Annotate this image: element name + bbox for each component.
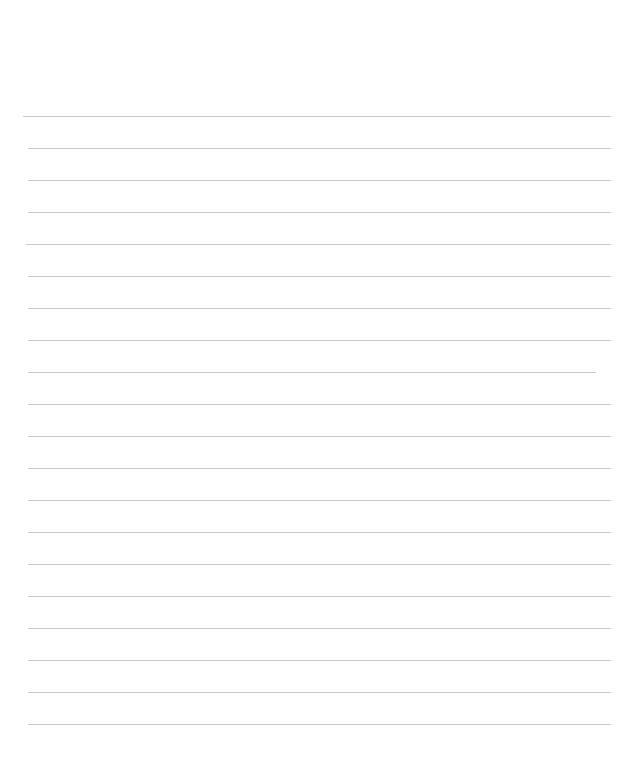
ruled-line: [28, 276, 611, 277]
ruled-line: [23, 116, 611, 117]
ruled-line: [28, 724, 611, 725]
ruled-line: [28, 564, 611, 565]
ruled-line: [28, 500, 611, 501]
ruled-line: [28, 212, 611, 213]
ruled-line: [28, 404, 611, 405]
ruled-line: [28, 468, 611, 469]
ruled-line: [28, 372, 596, 373]
lined-page: [0, 0, 642, 765]
ruled-line: [28, 628, 611, 629]
ruled-line: [28, 180, 611, 181]
ruled-line: [28, 532, 611, 533]
ruled-line: [28, 340, 611, 341]
ruled-line: [28, 596, 611, 597]
ruled-line: [28, 436, 611, 437]
ruled-line: [26, 244, 611, 245]
ruled-line: [28, 692, 611, 693]
ruled-line: [28, 148, 611, 149]
ruled-line: [28, 308, 611, 309]
ruled-line: [28, 660, 611, 661]
